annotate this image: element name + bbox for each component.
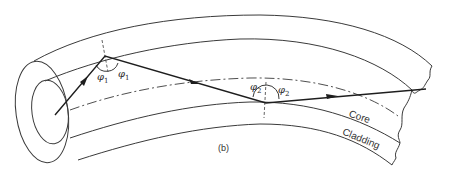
cladding-outer-top-edge — [34, 15, 432, 66]
angle-label-phi1-left: φ1 — [97, 71, 108, 85]
normal-line-2 — [264, 82, 266, 118]
core-end-face — [28, 78, 73, 146]
fiber-axis — [70, 78, 398, 116]
angle-label-phi1-right: φ1 — [118, 68, 129, 82]
figure-caption: (b) — [218, 143, 229, 153]
angle-label-phi2-right: φ2 — [278, 84, 289, 98]
angle-label-phi2-left: φ2 — [250, 81, 261, 95]
light-ray — [55, 56, 426, 115]
cladding-end-face — [9, 58, 75, 166]
